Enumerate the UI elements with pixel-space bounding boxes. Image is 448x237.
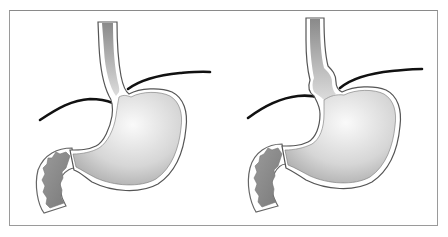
illustration — [0, 0, 448, 237]
panel-normal — [36, 22, 210, 213]
panel-hernia — [248, 18, 422, 212]
